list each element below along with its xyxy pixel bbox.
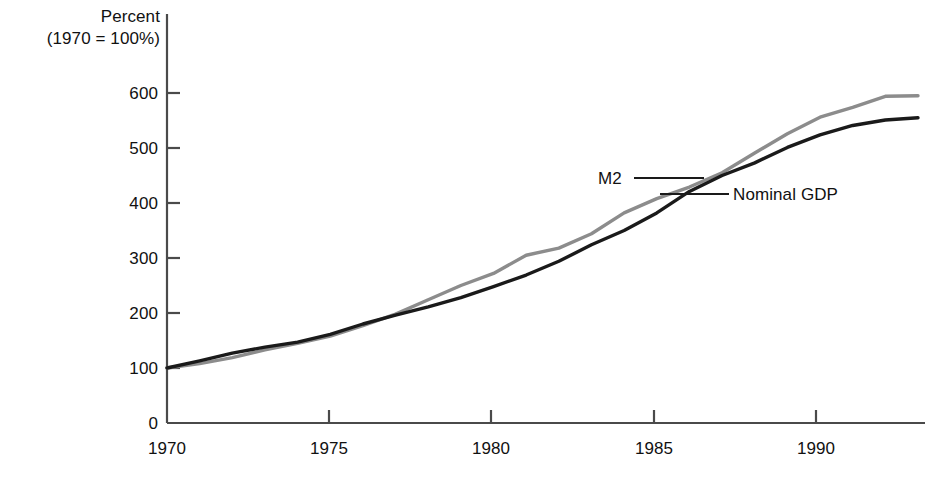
series-line-nominal-gdp bbox=[167, 96, 918, 368]
x-tick-label-1985: 1985 bbox=[619, 440, 689, 457]
y-tick-label-500: 500 bbox=[100, 140, 158, 157]
y-tick-label-100: 100 bbox=[100, 360, 158, 377]
data-series bbox=[167, 96, 918, 368]
plot-area bbox=[0, 0, 932, 479]
x-axis-ticks bbox=[329, 410, 816, 423]
y-tick-label-300: 300 bbox=[100, 250, 158, 267]
series-line-m2 bbox=[167, 118, 918, 368]
x-tick-label-1975: 1975 bbox=[294, 440, 364, 457]
chart-figure: Percent (1970 = 100%) 600 500 400 300 20… bbox=[0, 0, 932, 479]
x-tick-label-1990: 1990 bbox=[781, 440, 851, 457]
series-label-m2: M2 bbox=[598, 170, 622, 187]
y-axis-caption-line-1: Percent bbox=[0, 6, 160, 27]
y-axis-ticks bbox=[167, 93, 180, 368]
axis-lines bbox=[167, 14, 925, 423]
series-label-nominal-gdp: Nominal GDP bbox=[733, 186, 838, 203]
x-tick-label-1970: 1970 bbox=[132, 440, 202, 457]
y-tick-label-400: 400 bbox=[100, 195, 158, 212]
y-tick-label-200: 200 bbox=[100, 305, 158, 322]
y-tick-label-600: 600 bbox=[100, 85, 158, 102]
x-tick-label-1980: 1980 bbox=[456, 440, 526, 457]
y-tick-label-0: 0 bbox=[100, 415, 158, 432]
y-axis-caption-line-2: (1970 = 100%) bbox=[0, 28, 160, 49]
